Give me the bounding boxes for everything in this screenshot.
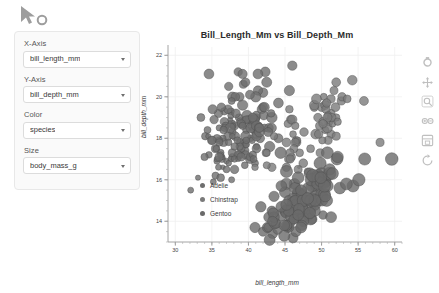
legend-label: Chinstrap [210, 196, 238, 203]
control-label-y-axis: Y-Axis [24, 75, 131, 84]
control-color: Color species [23, 110, 131, 139]
x-axis-select[interactable]: bill_length_mm [23, 51, 131, 68]
x-tick-label: 40 [245, 247, 251, 253]
color-select[interactable]: species [23, 122, 131, 139]
x-tick-label: 35 [209, 247, 215, 253]
control-y-axis: Y-Axis bill_depth_mm [23, 75, 131, 104]
control-label-x-axis: X-Axis [24, 39, 131, 48]
series-gentoo [250, 147, 398, 246]
camera-icon[interactable] [421, 56, 434, 69]
zoom-icon[interactable] [421, 95, 434, 108]
legend-item-chinstrap[interactable]: Chinstrap [200, 192, 238, 206]
x-tick-label: 45 [282, 247, 288, 253]
zoom-in-out-icon[interactable] [421, 115, 434, 128]
control-size: Size body_mass_g [23, 146, 131, 175]
y-tick-label: 20 [156, 94, 162, 100]
legend-label: Adelie [210, 182, 228, 189]
control-label-size: Size [24, 146, 131, 155]
legend-item-adelie[interactable]: Adelie [200, 178, 238, 192]
chart-legend[interactable]: AdelieChinstrapGentoo [200, 178, 238, 220]
color-select-value: species [30, 125, 55, 135]
size-select-value: body_mass_g [30, 161, 77, 171]
legend-marker-icon [200, 183, 205, 188]
y-tick-label: 22 [156, 52, 162, 58]
pan-icon[interactable] [421, 76, 434, 89]
legend-label: Gentoo [210, 210, 231, 217]
plotly-modebar[interactable] [421, 56, 434, 167]
legend-marker-icon [200, 211, 205, 216]
y-axis-select-value: bill_depth_mm [30, 90, 79, 100]
plot-canvas [146, 26, 408, 288]
x-tick-label: 55 [355, 247, 361, 253]
x-axis-select-value: bill_length_mm [30, 54, 80, 64]
legend-marker-icon [200, 197, 205, 202]
scatter-plot[interactable]: Bill_Length_Mm vs Bill_Depth_Mm bill_dep… [146, 26, 408, 288]
legend-item-gentoo[interactable]: Gentoo [200, 206, 238, 220]
reset-axes-icon[interactable] [421, 154, 434, 167]
y-tick-label: 18 [156, 135, 162, 141]
chevron-down-icon [121, 165, 125, 168]
chevron-down-icon [121, 129, 125, 132]
x-tick-label: 30 [172, 247, 178, 253]
x-tick-label: 60 [392, 247, 398, 253]
chevron-down-icon [121, 94, 125, 97]
size-select[interactable]: body_mass_g [23, 157, 131, 174]
control-x-axis: X-Axis bill_length_mm [23, 39, 131, 68]
control-label-color: Color [24, 110, 131, 119]
y-tick-label: 14 [156, 218, 162, 224]
controls-panel: X-Axis bill_length_mm Y-Axis bill_depth_… [14, 31, 140, 190]
y-axis-select[interactable]: bill_depth_mm [23, 86, 131, 103]
cursor-logo [17, 4, 61, 30]
autoscale-icon[interactable] [421, 134, 434, 147]
chevron-down-icon [121, 58, 125, 61]
y-tick-label: 16 [156, 177, 162, 183]
app-root: X-Axis bill_length_mm Y-Axis bill_depth_… [0, 0, 439, 293]
x-tick-label: 50 [319, 247, 325, 253]
